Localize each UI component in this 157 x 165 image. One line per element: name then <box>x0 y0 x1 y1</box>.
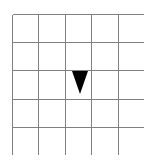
figure-canvas <box>0 0 157 165</box>
grid-figure <box>12 14 144 155</box>
grid-svg <box>12 14 144 155</box>
